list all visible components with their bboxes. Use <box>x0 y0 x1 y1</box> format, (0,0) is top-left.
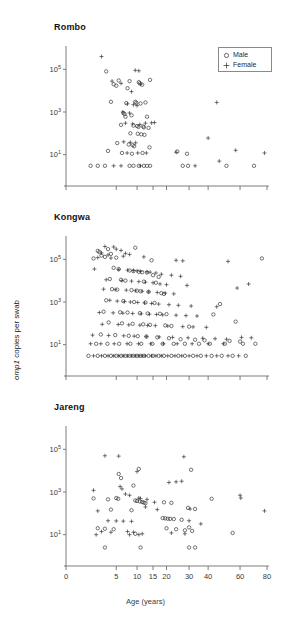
svg-text:10: 10 <box>133 572 141 581</box>
data-point-female <box>124 288 128 292</box>
data-point-male <box>130 114 133 117</box>
data-point-female <box>146 323 150 327</box>
svg-text:105: 105 <box>50 254 61 264</box>
data-point-female <box>131 530 135 534</box>
data-point-female <box>184 314 188 318</box>
data-point-female <box>145 497 149 501</box>
svg-text:5: 5 <box>114 572 118 581</box>
data-point-female <box>201 336 205 340</box>
data-point-female <box>92 267 96 271</box>
data-point-female <box>195 314 199 318</box>
data-point-female <box>240 335 244 339</box>
data-point-male <box>172 342 175 345</box>
data-point-female <box>167 480 171 484</box>
data-point-male <box>105 299 108 302</box>
data-point-male <box>132 484 135 487</box>
data-point-male <box>120 151 123 154</box>
data-point-female <box>190 342 194 346</box>
data-point-female <box>172 292 176 296</box>
data-point-female <box>123 121 127 125</box>
data-point-male <box>241 342 244 345</box>
data-point-female <box>92 354 96 358</box>
data-point-male <box>181 164 184 167</box>
trachoma-load-by-age-figure: omp1 copies per swab Rombo 101103105 Mal… <box>0 0 291 627</box>
data-point-female <box>130 279 134 283</box>
data-point-female <box>155 290 159 294</box>
data-point-male <box>106 342 109 345</box>
data-point-female <box>112 164 116 168</box>
data-point-female <box>166 324 170 328</box>
data-point-male <box>254 342 257 345</box>
data-point-female <box>130 519 134 523</box>
data-point-female <box>182 455 186 459</box>
data-point-female <box>121 254 125 258</box>
legend-female-label: Female <box>233 61 256 68</box>
data-point-female <box>128 300 132 304</box>
data-point-female <box>262 509 266 513</box>
data-point-male <box>136 334 139 337</box>
data-point-female <box>117 454 121 458</box>
data-point-male <box>130 509 133 512</box>
data-point-male <box>110 287 113 290</box>
data-point-male <box>228 339 231 342</box>
data-point-male <box>167 337 170 340</box>
data-point-female <box>111 311 115 315</box>
panel-rombo: Rombo 101103105 Male Female <box>0 0 291 200</box>
data-point-female <box>204 354 208 358</box>
data-point-male <box>124 279 127 282</box>
data-point-male <box>187 325 190 328</box>
data-point-female <box>115 299 119 303</box>
data-point-female <box>128 252 132 256</box>
data-point-female <box>120 487 124 491</box>
data-point-female <box>226 354 230 358</box>
data-point-female <box>103 454 107 458</box>
data-point-female <box>234 148 238 152</box>
data-point-male <box>147 126 150 129</box>
legend-male-circle-icon <box>223 52 230 59</box>
data-point-male <box>244 354 247 357</box>
data-point-male <box>115 84 118 87</box>
data-point-female <box>144 151 148 155</box>
data-point-male <box>127 143 130 146</box>
panel-title-kongwa: Kongwa <box>54 212 90 222</box>
data-point-male <box>134 532 137 535</box>
data-point-male <box>117 472 120 475</box>
data-point-female <box>158 282 162 286</box>
data-point-male <box>203 339 206 342</box>
data-point-male <box>150 259 153 262</box>
data-point-male <box>162 501 165 504</box>
data-point-male <box>220 354 223 357</box>
data-point-female <box>107 333 111 337</box>
plot-area-kongwa: 101103105 <box>56 234 271 384</box>
data-point-male <box>189 468 192 471</box>
data-point-male <box>180 518 183 521</box>
data-point-male <box>114 333 117 336</box>
svg-text:105: 105 <box>50 444 61 454</box>
data-point-male <box>165 312 168 315</box>
data-point-male <box>210 354 213 357</box>
data-point-female <box>119 164 123 168</box>
data-point-female <box>187 519 191 523</box>
data-point-female <box>114 519 118 523</box>
svg-text:20: 20 <box>162 572 170 581</box>
data-point-female <box>102 287 106 291</box>
data-point-female <box>199 522 203 526</box>
data-point-female <box>91 333 95 337</box>
data-point-female <box>176 303 180 307</box>
data-point-male <box>190 529 193 532</box>
data-point-male <box>234 320 237 323</box>
data-point-female <box>189 304 193 308</box>
data-point-female <box>100 354 104 358</box>
data-point-female <box>116 323 120 327</box>
data-point-male <box>109 508 112 511</box>
data-point-male <box>116 141 119 144</box>
data-point-male <box>139 546 142 549</box>
data-point-female <box>174 480 178 484</box>
data-point-female <box>174 313 178 317</box>
data-point-female <box>142 255 146 259</box>
data-point-female <box>181 325 185 329</box>
data-point-male <box>148 146 151 149</box>
legend-male-label: Male <box>233 51 248 58</box>
data-point-female <box>143 505 147 509</box>
data-point-male <box>96 164 99 167</box>
